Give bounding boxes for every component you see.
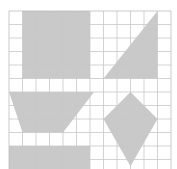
shapes-layer <box>9 11 158 169</box>
grid-diagram <box>0 0 177 169</box>
left-trapezoid-shape <box>9 92 94 133</box>
top-rectangle-shape <box>23 11 91 79</box>
